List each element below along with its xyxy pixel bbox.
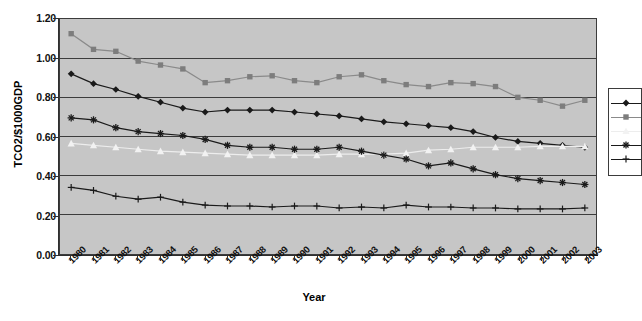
data-point-square [537,98,542,103]
data-point-plus [514,206,521,213]
data-point-diamond [224,107,231,114]
x-tick-mark [160,256,161,261]
x-tick-mark [429,256,430,261]
data-point-square [403,82,408,87]
data-point-asterisk [202,136,209,143]
y-tick-mark [53,97,59,98]
data-point-square [158,62,163,67]
x-tick-mark [227,256,228,261]
data-point-square [582,98,587,103]
x-axis-title: Year [0,291,628,303]
legend-item-2[interactable] [609,117,642,118]
data-point-diamond [157,99,164,106]
data-point-diamond [425,122,432,129]
data-point-asterisk [358,148,365,155]
data-point-diamond [313,111,320,118]
data-point-plus [157,194,164,201]
data-point-diamond [68,70,75,77]
data-point-plus [492,205,499,212]
data-point-asterisk [246,144,253,151]
y-tick-mark [53,18,59,19]
data-point-asterisk [447,159,454,166]
data-point-square [493,84,498,89]
data-point-plus [68,184,75,191]
y-tick-mark [53,137,59,138]
data-point-asterisk [514,175,521,182]
data-point-plus [447,204,454,211]
data-point-diamond [623,100,630,107]
data-point-square [381,78,386,83]
data-point-triangle [622,127,629,134]
data-point-square [91,47,96,52]
legend-item-4[interactable] [609,145,642,146]
data-point-diamond [246,107,253,114]
data-point-asterisk [581,181,588,188]
x-tick-mark [93,256,94,261]
data-point-plus [358,204,365,211]
data-point-plus [135,196,142,203]
data-point-plus [112,193,119,200]
y-tick-mark [53,176,59,177]
data-point-plus [291,203,298,210]
data-point-plus [202,202,209,209]
data-point-diamond [269,107,276,114]
data-point-diamond [447,124,454,131]
data-point-plus [425,204,432,211]
x-tick-mark [519,256,520,261]
y-axis-tick-labels: 0.000.200.400.600.801.001.20 [18,18,56,255]
data-point-diamond [358,116,365,123]
data-point-asterisk [179,132,186,139]
data-point-asterisk [622,141,629,148]
legend-item-5[interactable] [609,159,642,160]
legend-item-3[interactable] [609,131,642,132]
data-point-square [269,73,274,78]
x-tick-mark [339,256,340,261]
data-point-square [180,66,185,71]
data-point-square [314,80,319,85]
data-point-plus [269,204,276,211]
data-point-plus [224,203,231,210]
x-tick-mark [362,256,363,261]
series-5 [68,184,588,212]
data-point-square [68,31,73,36]
x-tick-mark [294,256,295,261]
x-tick-mark [384,256,385,261]
y-tick-mark [53,255,59,256]
legend-item-1[interactable] [609,103,642,104]
data-point-asterisk [90,116,97,123]
data-point-plus [90,187,97,194]
x-tick-mark [496,256,497,261]
data-point-square [225,78,230,83]
data-point-plus [559,206,566,213]
data-point-square [560,103,565,108]
data-point-plus [380,205,387,212]
x-tick-mark [317,256,318,261]
series-1 [68,70,588,150]
data-point-square [247,74,252,79]
data-point-diamond [380,118,387,125]
data-point-diamond [470,128,477,135]
data-point-square [448,80,453,85]
data-point-square [359,72,364,77]
x-tick-mark [451,256,452,261]
data-point-asterisk [112,124,119,131]
x-tick-mark [250,256,251,261]
x-tick-mark [115,256,116,261]
data-point-plus [336,205,343,212]
data-point-plus [537,206,544,213]
data-point-diamond [135,93,142,100]
data-point-square [426,84,431,89]
data-point-asterisk [68,114,75,121]
data-point-plus [403,202,410,209]
data-series-layer [60,19,596,254]
series-3 [68,140,589,158]
data-point-diamond [403,120,410,127]
data-point-asterisk [157,130,164,137]
data-point-diamond [291,109,298,116]
x-tick-mark [70,256,71,261]
data-point-asterisk [403,155,410,162]
x-tick-mark [474,256,475,261]
data-point-asterisk [559,179,566,186]
data-point-asterisk [425,162,432,169]
